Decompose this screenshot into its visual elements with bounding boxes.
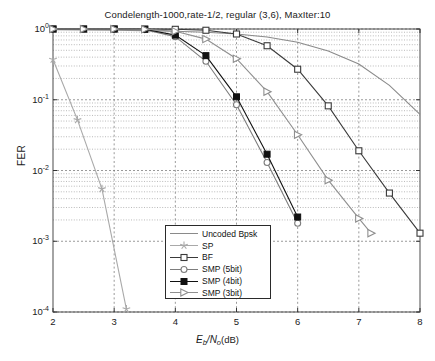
chart-legend: Uncoded BpskSPBFSMP (5bit)SMP (4bit)SMP …: [165, 225, 271, 299]
figure-canvas: Condelength-1000,rate-1/2, regular (3,6)…: [0, 0, 435, 361]
legend-marker-icon: [169, 287, 199, 298]
legend-item[interactable]: SP: [166, 240, 270, 252]
legend-marker-icon: [169, 276, 199, 287]
legend-label: SMP (4bit): [199, 276, 242, 286]
series-1: [49, 56, 130, 313]
legend-label: SMP (5bit): [199, 264, 242, 274]
legend-marker-icon: [169, 228, 199, 239]
legend-marker-icon: [169, 252, 199, 263]
legend-label: SP: [199, 241, 213, 251]
legend-marker-icon: [169, 264, 199, 275]
legend-label: Uncoded Bpsk: [199, 229, 257, 239]
legend-item[interactable]: SMP (3bit): [166, 287, 270, 299]
legend-marker-icon: [169, 240, 199, 251]
legend-item[interactable]: SMP (4bit): [166, 275, 270, 287]
legend-item[interactable]: Uncoded Bpsk: [166, 228, 270, 240]
plot-area: [0, 0, 435, 361]
legend-label: BF: [199, 252, 213, 262]
legend-item[interactable]: SMP (5bit): [166, 263, 270, 275]
legend-item[interactable]: BF: [166, 252, 270, 264]
legend-label: SMP (3bit): [199, 288, 242, 298]
